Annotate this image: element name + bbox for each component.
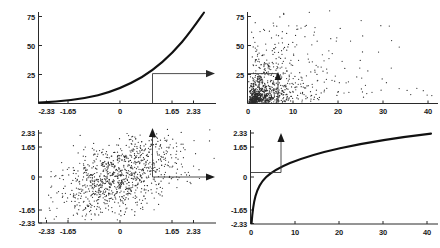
- bottom-right-xtick-20: 20: [335, 228, 343, 237]
- bottom-right-ytick-165: 1.65: [221, 143, 247, 152]
- top-right-xtick-0: 0: [246, 107, 250, 116]
- bottom-left-ytick-0: 0: [8, 173, 35, 182]
- bottom-left-ytick-165: 1.65: [8, 143, 35, 152]
- bottom-left-xtick-0: 0: [118, 227, 122, 236]
- bottom-left-ytick-233: 2.33: [8, 129, 35, 138]
- panel-top-left: 75 50 25 -2.33 -1.65 0 1.65 2.33: [0, 0, 220, 124]
- top-left-xtick-0: 0: [118, 107, 122, 116]
- panel-bottom-right: 2.33 1.65 0 -1.65 -2.33 0 10 20 30 40: [220, 124, 440, 248]
- top-left-xtick-165: 1.65: [165, 107, 179, 116]
- top-left-xtick-neg233: -2.33: [38, 107, 54, 116]
- bottom-right-xtick-30: 30: [379, 228, 387, 237]
- top-right-ytick-50: 50: [230, 41, 244, 50]
- bottom-left-arrowhead-up-icon: [149, 128, 156, 137]
- bottom-right-xtick-0: 0: [249, 228, 253, 237]
- bottom-right-ytick-233: 2.33: [221, 129, 247, 138]
- top-left-ytick-25: 25: [20, 70, 35, 79]
- bottom-right-ytick-neg165: -1.65: [221, 206, 247, 215]
- top-right-scatter-points: [248, 10, 432, 103]
- bottom-right-xtick-10: 10: [291, 228, 299, 237]
- top-right-ytick-75: 75: [230, 12, 244, 21]
- top-left-xtick-neg165: -1.65: [60, 107, 76, 116]
- top-right-y-ticks: [248, 17, 252, 75]
- panel-top-right: 75 50 25 0 10 20 30 40: [220, 0, 440, 124]
- bottom-left-arrowhead-right-icon: [206, 173, 215, 180]
- top-right-ytick-25: 25: [230, 70, 244, 79]
- bottom-left-xtick-neg233: -2.33: [38, 227, 54, 236]
- top-right-xtick-30: 30: [379, 107, 387, 116]
- bottom-left-scatter-points: [45, 129, 215, 221]
- top-left-y-ticks: [39, 17, 43, 75]
- top-left-arrowhead-right-icon: [206, 70, 215, 77]
- bottom-right-arrowhead-up-icon: [277, 133, 284, 142]
- bottom-left-xtick-233: 2.33: [187, 227, 201, 236]
- top-left-curve: [39, 13, 204, 103]
- bottom-left-y-ticks: [39, 133, 43, 223]
- bottom-left-xtick-165: 1.65: [165, 227, 179, 236]
- top-left-ytick-50: 50: [20, 41, 35, 50]
- bottom-right-curve: [252, 134, 431, 223]
- panel-bottom-left: 2.33 1.65 0 -1.65 -2.33 -2.33 -1.65 0 1.…: [0, 124, 220, 248]
- bottom-right-ytick-0: 0: [221, 173, 247, 182]
- bottom-left-ytick-neg233: -2.33: [8, 219, 35, 228]
- top-right-xtick-20: 20: [334, 107, 342, 116]
- four-panel-figure: 75 50 25 -2.33 -1.65 0 1.65 2.33: [0, 0, 440, 248]
- bottom-right-ytick-neg233: -2.33: [221, 219, 247, 228]
- top-left-ytick-75: 75: [20, 12, 35, 21]
- bottom-left-xtick-neg165: -1.65: [60, 227, 76, 236]
- top-right-plot-svg: [220, 0, 440, 124]
- top-right-xtick-10: 10: [289, 107, 297, 116]
- bottom-left-ytick-neg165: -1.65: [8, 206, 35, 215]
- top-right-xtick-40: 40: [424, 107, 432, 116]
- bottom-right-xtick-40: 40: [423, 228, 431, 237]
- top-left-xtick-233: 2.33: [187, 107, 201, 116]
